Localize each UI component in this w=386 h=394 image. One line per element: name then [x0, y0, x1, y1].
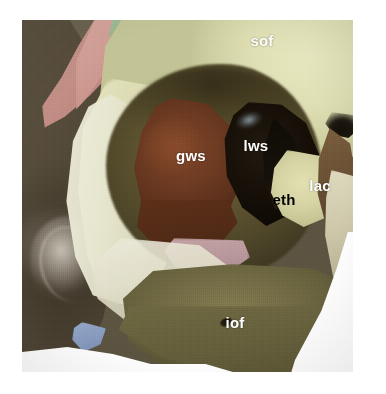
label-lac: lac — [309, 178, 330, 193]
label-sof: sof — [250, 33, 273, 48]
label-lws: lws — [244, 138, 269, 153]
label-gws: gws — [176, 148, 206, 163]
label-iof: iof — [226, 315, 245, 330]
label-eth: eth — [272, 192, 295, 207]
specimen-photograph — [22, 20, 353, 372]
orbit-anatomy-figure: sofgwslwsethlaciof — [0, 0, 386, 394]
